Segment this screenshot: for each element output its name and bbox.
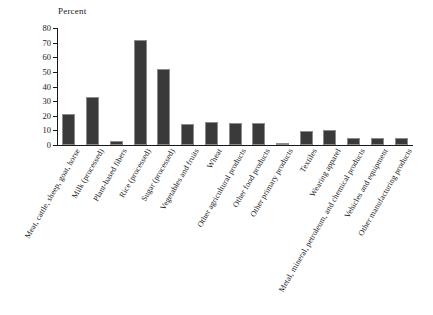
y-tick-mark [53,28,57,29]
bar[interactable] [134,40,147,145]
y-tick-mark [53,116,57,117]
bar[interactable] [205,122,218,145]
bar[interactable] [157,69,170,145]
bar[interactable] [300,131,313,145]
bar[interactable] [86,97,99,145]
x-axis-label: Other primary products [249,147,295,218]
y-tick-label: 40 [43,82,52,92]
y-tick-label: 0 [47,140,51,150]
x-axis-line [57,145,413,146]
bar[interactable] [229,123,242,145]
y-tick-label: 10 [43,125,52,135]
y-tick-label: 60 [43,52,52,62]
bar[interactable] [323,130,336,145]
y-tick-label: 20 [43,111,52,121]
y-tick-mark [53,87,57,88]
y-tick-mark [53,145,57,146]
y-tick-label: 50 [43,67,52,77]
bar[interactable] [62,114,75,145]
y-tick-mark [53,101,57,102]
y-tick-label: 80 [43,23,52,33]
x-axis-label: Wheat [206,147,224,170]
y-axis-line [57,28,58,146]
y-tick-mark [53,130,57,131]
y-tick-label: 30 [43,96,52,106]
plot-area: 01020304050607080 [57,28,413,146]
x-axis-label: Textiles [298,147,319,174]
bar[interactable] [276,143,289,145]
bar[interactable] [252,123,265,145]
y-tick-mark [53,57,57,58]
y-tick-mark [53,43,57,44]
x-axis-label: Vehicles and equipment [343,147,390,220]
y-tick-mark [53,72,57,73]
y-tick-label: 70 [43,38,52,48]
bar[interactable] [110,141,123,145]
bar-chart-figure: Percent 01020304050607080 Meat, cattle, … [0,0,433,315]
y-axis-title: Percent [58,6,86,16]
bar[interactable] [181,124,194,145]
bar[interactable] [347,138,360,145]
bar[interactable] [371,138,384,145]
x-axis-labels: Meat, cattle, sheep, goat, horseMilk (pr… [57,147,433,315]
bar[interactable] [395,138,408,145]
